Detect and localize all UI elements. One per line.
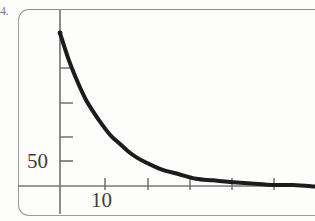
figure-root: 4. 50 10 — [0, 0, 315, 221]
decay-curve — [60, 33, 315, 187]
plot-canvas — [0, 0, 315, 221]
y-axis-tick-label-50: 50 — [27, 151, 48, 172]
y-axis-ticks — [60, 68, 73, 161]
curve-origin-ink — [58, 31, 63, 36]
x-axis-tick-label-10: 10 — [91, 190, 112, 211]
